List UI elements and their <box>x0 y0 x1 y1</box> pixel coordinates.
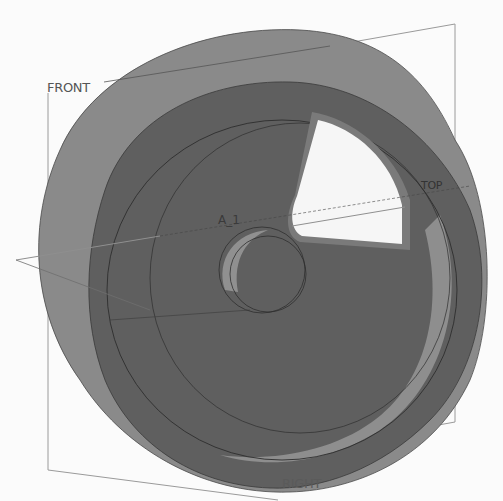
model-canvas[interactable]: FRONT TOP RIGHT A_1 <box>0 0 503 501</box>
datum-label-right[interactable]: RIGHT <box>282 476 322 491</box>
hub[interactable] <box>219 227 306 313</box>
datum-label-front[interactable]: FRONT <box>47 80 90 95</box>
datum-axis-label-a1[interactable]: A_1 <box>218 213 240 227</box>
datum-label-top[interactable]: TOP <box>420 179 443 192</box>
model-viewport[interactable]: FRONT TOP RIGHT A_1 <box>0 0 503 501</box>
